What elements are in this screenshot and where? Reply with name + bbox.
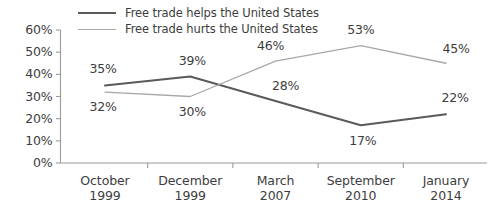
legend-label: Free trade hurts the United States [125, 22, 318, 36]
data-point-label: 53% [339, 22, 383, 37]
data-point-label: 35% [81, 61, 125, 76]
category-label-line: October [60, 173, 150, 188]
data-point-label: 32% [81, 99, 125, 114]
data-point-label: 39% [170, 53, 214, 68]
category-label-line: December [145, 173, 235, 188]
x-axis-category-label: December1999 [145, 173, 235, 203]
data-point-label: 22% [433, 90, 477, 105]
category-label-line: 2010 [316, 188, 406, 203]
category-label-line: September [316, 173, 406, 188]
data-point-label: 45% [434, 41, 478, 56]
data-point-label: 46% [249, 38, 293, 53]
x-axis-category-label: March2007 [231, 173, 321, 203]
legend-line-swatch-icon [78, 29, 116, 30]
legend-item-helps[interactable]: Free trade helps the United States [78, 6, 319, 20]
category-label-line: 1999 [145, 188, 235, 203]
legend-label: Free trade helps the United States [125, 6, 319, 20]
category-label-line: March [231, 173, 321, 188]
y-axis-label: 30% [25, 89, 52, 104]
x-axis-category-label: October1999 [60, 173, 150, 203]
y-axis-label: 10% [25, 133, 52, 148]
legend-line-swatch-icon [78, 12, 116, 14]
x-axis-category-label: September2010 [316, 173, 406, 203]
legend-item-hurts[interactable]: Free trade hurts the United States [78, 22, 318, 36]
x-axis-category-label: January2014 [401, 173, 491, 203]
category-label-line: 2007 [231, 188, 321, 203]
line-chart: 60%50%40%30%20%10%0% October1999December… [0, 0, 494, 214]
data-point-label: 30% [170, 104, 214, 119]
category-label-line: January [401, 173, 491, 188]
y-axis-label: 60% [25, 22, 52, 37]
y-axis-label: 50% [25, 44, 52, 59]
y-axis-label: 0% [33, 155, 52, 170]
category-label-line: 2014 [401, 188, 491, 203]
data-point-label: 17% [341, 133, 385, 148]
y-axis-label: 40% [25, 66, 52, 81]
data-point-label: 28% [264, 78, 308, 93]
category-label-line: 1999 [60, 188, 150, 203]
y-axis-label: 20% [25, 111, 52, 126]
